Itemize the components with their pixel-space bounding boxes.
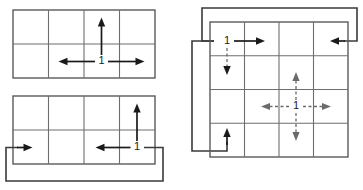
wrap-top-to-bottom-right-panel <box>192 41 231 151</box>
arrow-up-bottom-left <box>133 104 140 142</box>
center-arrow-up-right-panel <box>292 72 299 100</box>
center-arrow-right-right-panel <box>303 103 331 110</box>
panel-right: 1 1 <box>192 8 357 157</box>
cell-label-right-center: 1 <box>293 99 299 111</box>
panel-bottom-left: 1 <box>6 96 163 181</box>
cell-label-top-left-center: 1 <box>98 54 104 66</box>
arrow-left-bottom-left <box>96 144 131 151</box>
figure-root: 1 <box>0 0 363 190</box>
stencil-diagram-canvas: 1 <box>0 0 363 190</box>
panel-top-left: 1 <box>13 10 155 78</box>
cell-label-bottom-left-center: 1 <box>134 140 140 152</box>
arrow-right-top-left <box>108 58 145 65</box>
arrow-up-top-left <box>98 18 105 56</box>
center-arrow-left-right-panel <box>261 103 289 110</box>
center-arrow-down-right-panel <box>292 113 299 141</box>
corner-arrow-right-right-panel <box>234 37 265 44</box>
corner-arrow-down-right-panel <box>223 48 230 75</box>
arrow-left-top-left <box>59 58 96 65</box>
cell-label-right-corner: 1 <box>224 34 230 46</box>
